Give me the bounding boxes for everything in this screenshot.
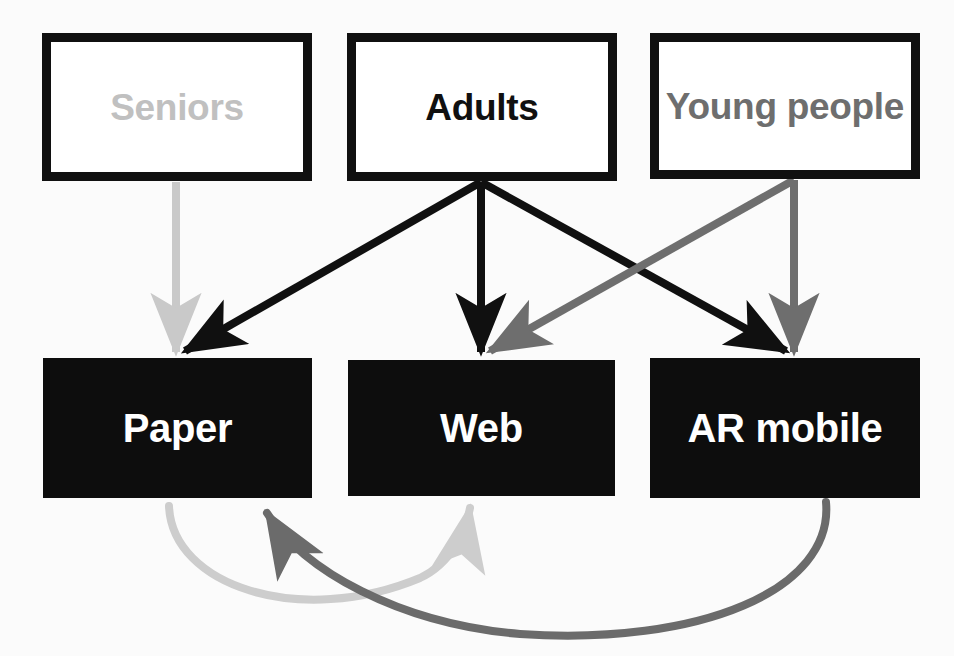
node-web[interactable]: Web bbox=[348, 360, 615, 496]
edge-ar-mobile-to-paper bbox=[267, 502, 826, 636]
node-ar-mobile-label: AR mobile bbox=[687, 408, 882, 448]
node-seniors-label: Seniors bbox=[110, 89, 244, 126]
edge-paper-to-web bbox=[169, 506, 470, 600]
diagram-canvas: Seniors Adults Young people Paper Web AR… bbox=[0, 0, 954, 656]
node-seniors[interactable]: Seniors bbox=[42, 33, 312, 181]
node-adults[interactable]: Adults bbox=[347, 33, 617, 181]
node-ar-mobile[interactable]: AR mobile bbox=[650, 358, 920, 498]
node-young-people-label: Young people bbox=[666, 88, 904, 125]
node-adults-label: Adults bbox=[425, 89, 538, 126]
node-web-label: Web bbox=[440, 408, 523, 448]
node-young-people[interactable]: Young people bbox=[650, 33, 920, 179]
edge-adults-to-paper bbox=[185, 182, 481, 351]
node-paper[interactable]: Paper bbox=[43, 358, 312, 498]
edge-young-people-to-web bbox=[490, 180, 794, 351]
node-paper-label: Paper bbox=[123, 408, 233, 448]
